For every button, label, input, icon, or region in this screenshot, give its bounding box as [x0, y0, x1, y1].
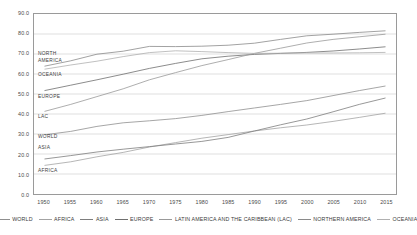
y-axis-tick-label: 70.0	[3, 50, 29, 56]
y-axis-tick-label: 50.0	[3, 91, 29, 97]
y-axis-tick-label: 60.0	[3, 71, 29, 77]
x-axis-tick-label: 2000	[301, 199, 313, 205]
legend-item-northern-america[interactable]: NORTHERN AMERICA	[298, 216, 371, 222]
x-axis-tick-label: 1990	[248, 199, 260, 205]
series-lines	[34, 14, 396, 194]
y-axis-tick-label: 80.0	[3, 30, 29, 36]
legend-item-europe[interactable]: EUROPE	[115, 216, 154, 222]
legend-line-swatch	[80, 219, 93, 220]
plot-area: NORTH AMERICAOCEANIAEUROPELACWORLDASIAAF…	[33, 13, 397, 195]
x-axis-tick-label: 2010	[354, 199, 366, 205]
series-line-northern-america	[44, 31, 385, 66]
x-axis-tick-label: 1995	[275, 199, 287, 205]
y-axis-tick-label: 30.0	[3, 131, 29, 137]
legend-item-label: LATIN AMERICA AND THE CARIBBEAN (LAC)	[175, 216, 292, 222]
legend-item-label: NORTHERN AMERICA	[313, 216, 371, 222]
x-axis-tick-label: 1955	[64, 199, 76, 205]
legend-line-swatch	[115, 219, 128, 220]
chart-legend: WORLDAFRICAASIAEUROPELATIN AMERICA AND T…	[0, 216, 414, 222]
legend-line-swatch	[39, 219, 52, 220]
legend-item-asia[interactable]: ASIA	[80, 216, 108, 222]
x-axis-tick-label: 1975	[169, 199, 181, 205]
x-axis-tick-label: 1965	[116, 199, 128, 205]
legend-line-swatch	[159, 219, 172, 220]
legend-item-africa[interactable]: AFRICA	[39, 216, 75, 222]
x-axis-tick-label: 2005	[327, 199, 339, 205]
x-axis-tick-label: 1980	[196, 199, 208, 205]
x-axis-tick-label: 1960	[90, 199, 102, 205]
series-line-world	[44, 86, 385, 135]
legend-item-world[interactable]: WORLD	[0, 216, 33, 222]
series-line-oceania	[44, 51, 385, 69]
y-axis-tick-label: 20.0	[3, 152, 29, 158]
y-axis-tick-label: 10.0	[3, 172, 29, 178]
y-axis-tick-label: 40.0	[3, 111, 29, 117]
legend-item-oceania[interactable]: OCEANIA	[377, 216, 417, 222]
legend-item-label: ASIA	[96, 216, 109, 222]
x-axis-tick-label: 1985	[222, 199, 234, 205]
legend-item-label: WORLD	[12, 216, 32, 222]
y-axis-tick-label: 90.0	[3, 10, 29, 16]
legend-item-label: AFRICA	[54, 216, 74, 222]
legend-item-label: OCEANIA	[392, 216, 417, 222]
series-line-asia	[44, 98, 385, 159]
x-axis-tick-label: 1970	[143, 199, 155, 205]
legend-line-swatch	[0, 219, 10, 220]
legend-line-swatch	[298, 219, 311, 220]
legend-item-label: EUROPE	[130, 216, 153, 222]
legend-line-swatch	[377, 219, 390, 220]
x-axis-tick-label: 2015	[380, 199, 392, 205]
y-axis-tick-label: 0.0	[3, 192, 29, 198]
x-axis-tick-label: 1950	[37, 199, 49, 205]
legend-item-latin-america-and-the-caribbean-lac[interactable]: LATIN AMERICA AND THE CARIBBEAN (LAC)	[159, 216, 291, 222]
